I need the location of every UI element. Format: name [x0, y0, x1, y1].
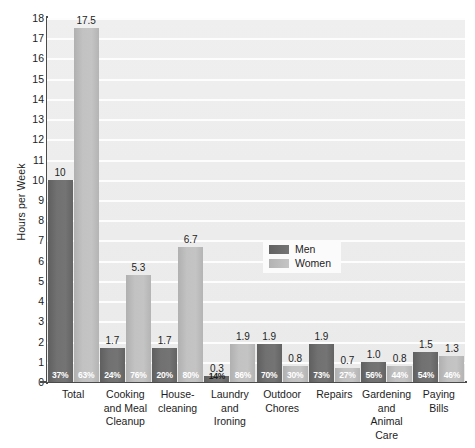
bar-value-label: 1.7: [158, 335, 172, 346]
bar-value-label: 0.7: [340, 355, 354, 366]
bar-value-label: 1.0: [367, 349, 381, 360]
bar-group: 1.970%0.830%: [256, 18, 308, 382]
bar-share-label: 46%: [444, 371, 460, 380]
y-axis-tick-17: 17: [4, 33, 44, 43]
bar-share-label: 80%: [182, 371, 198, 380]
category-line: Gardening: [362, 388, 412, 402]
bar-share-label: 24%: [104, 371, 120, 380]
bar-share-label: 37%: [52, 371, 68, 380]
category-line: Bills: [414, 402, 464, 416]
bar-slot: 1.720%: [152, 18, 177, 382]
y-axis-tick-6: 6: [4, 256, 44, 266]
bar-men[interactable]: 1.056%: [361, 362, 386, 382]
bar-value-label: 0.8: [288, 353, 302, 364]
x-axis-category-4: OutdoorChores: [256, 388, 308, 442]
bar-men[interactable]: 1.973%: [309, 344, 334, 382]
category-line: cleaning: [153, 402, 203, 416]
bar-slot: 0.727%: [335, 18, 360, 382]
x-axis-category-7: PayingBills: [413, 388, 465, 442]
bar-women[interactable]: 5.376%: [126, 275, 151, 382]
bar-group: 1.720%6.780%: [152, 18, 204, 382]
y-axis-tick-14: 14: [4, 94, 44, 104]
legend-label-women: Women: [295, 258, 331, 269]
bar-slot: 1.986%: [230, 18, 255, 382]
bar-group: 1.724%5.376%: [99, 18, 151, 382]
bar-men[interactable]: 1037%: [48, 180, 73, 382]
bar-men[interactable]: 1.724%: [100, 348, 125, 382]
category-line: Total: [48, 388, 98, 402]
y-axis-tick-7: 7: [4, 235, 44, 245]
category-line: House-: [153, 388, 203, 402]
bar-share-label: 54%: [418, 371, 434, 380]
x-axis-category-3: LaundryandIroning: [204, 388, 256, 442]
bar-value-label: 1.3: [445, 343, 459, 354]
bar-women[interactable]: 6.780%: [178, 247, 203, 382]
y-axis-tick-2: 2: [4, 337, 44, 347]
y-axis-tick-3: 3: [4, 316, 44, 326]
y-axis-tick-13: 13: [4, 114, 44, 124]
category-line: Animal Care: [362, 415, 412, 442]
bar-slot: 0.314%: [204, 18, 229, 382]
x-axis-category-2: House-cleaning: [152, 388, 204, 442]
y-axis-tick-11: 11: [4, 155, 44, 165]
bar-value-label: 0.8: [393, 353, 407, 364]
y-axis-tick-12: 12: [4, 134, 44, 144]
category-line: Laundry: [205, 388, 255, 402]
bar-share-label: 14%: [209, 372, 225, 381]
y-axis-tick-labels: 1817161514131211109876543210: [0, 0, 44, 448]
bar-share-label: 70%: [261, 371, 277, 380]
bar-men[interactable]: 1.554%: [413, 352, 438, 382]
y-axis-tick-4: 4: [4, 296, 44, 306]
bar-group: 1.554%1.346%: [413, 18, 465, 382]
bar-value-label: 1.9: [262, 331, 276, 342]
category-line: Cleanup: [100, 415, 150, 429]
bar-women[interactable]: 17.563%: [74, 28, 99, 382]
plot-area: 1037%17.563%1.724%5.376%1.720%6.780%0.31…: [47, 18, 465, 382]
x-axis-category-labels: TotalCookingand MealCleanupHouse-cleanin…: [47, 388, 465, 442]
bar-share-label: 56%: [365, 371, 381, 380]
bar-share-label: 63%: [78, 371, 94, 380]
legend-item-women: Women: [269, 258, 331, 269]
legend-swatch-women-icon: [269, 259, 289, 268]
bar-group: 1037%17.563%: [47, 18, 99, 382]
bar-chart: Hours per Week 1817161514131211109876543…: [0, 0, 475, 448]
legend-item-men: Men: [269, 244, 331, 255]
bar-value-label: 1.5: [419, 339, 433, 350]
bar-value-label: 5.3: [131, 262, 145, 273]
y-axis-tick-9: 9: [4, 195, 44, 205]
bar-women[interactable]: 0.830%: [283, 366, 308, 382]
bar-slot: 0.830%: [283, 18, 308, 382]
category-line: Chores: [257, 402, 307, 416]
bar-share-label: 76%: [130, 371, 146, 380]
bar-share-label: 44%: [391, 371, 407, 380]
y-axis-tick-15: 15: [4, 74, 44, 84]
bar-slot: 1.970%: [257, 18, 282, 382]
x-axis-category-5: Repairs: [308, 388, 360, 442]
bar-value-label: 10: [55, 167, 66, 178]
bar-women[interactable]: 1.346%: [439, 356, 464, 382]
legend: Men Women: [263, 240, 341, 273]
category-line: Ironing: [205, 415, 255, 429]
bar-women[interactable]: 0.844%: [387, 366, 412, 382]
bar-slot: 1.346%: [439, 18, 464, 382]
y-axis-tick-0: 0: [4, 377, 44, 387]
bar-slot: 1037%: [48, 18, 73, 382]
bar-men[interactable]: 0.314%: [204, 376, 229, 382]
bar-women[interactable]: 0.727%: [335, 368, 360, 382]
bar-men[interactable]: 1.720%: [152, 348, 177, 382]
x-axis-category-6: GardeningandAnimal Care: [361, 388, 413, 442]
bar-women[interactable]: 1.986%: [230, 344, 255, 382]
bar-slot: 1.724%: [100, 18, 125, 382]
bar-slot: 1.554%: [413, 18, 438, 382]
bar-group: 1.973%0.727%: [308, 18, 360, 382]
bar-value-label: 17.5: [76, 15, 95, 26]
y-axis-tick-5: 5: [4, 276, 44, 286]
bar-slot: 1.973%: [309, 18, 334, 382]
x-axis-category-1: Cookingand MealCleanup: [99, 388, 151, 442]
y-axis-tick-1: 1: [4, 357, 44, 367]
bar-slot: 6.780%: [178, 18, 203, 382]
bar-men[interactable]: 1.970%: [257, 344, 282, 382]
bar-slot: 1.056%: [361, 18, 386, 382]
category-line: Repairs: [309, 388, 359, 402]
legend-label-men: Men: [295, 244, 315, 255]
